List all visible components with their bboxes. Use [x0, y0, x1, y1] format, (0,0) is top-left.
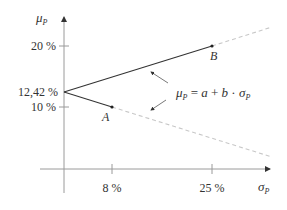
- efficient-line-diagram: μP 20 % 12,42 % 10 % 8 % 25 % σP A B μP …: [0, 0, 287, 210]
- y-tick-label-10: 10 %: [31, 100, 56, 114]
- x-tick-label-25: 25 %: [200, 181, 225, 195]
- diagram-canvas: μP 20 % 12,42 % 10 % 8 % 25 % σP A B μP …: [0, 0, 287, 210]
- annotation-arrow-lower: [151, 100, 166, 110]
- x-tick-label-8: 8 %: [103, 181, 122, 195]
- y-tick-label-intercept: 12,42 %: [18, 85, 58, 99]
- dashed-extension-upper: [212, 27, 272, 46]
- y-tick-label-20: 20 %: [31, 39, 56, 53]
- dashed-extension-lower: [112, 107, 272, 157]
- point-B-label: B: [210, 49, 218, 63]
- point-A-marker: [110, 105, 113, 108]
- line-to-A: [64, 92, 112, 107]
- point-A-label: A: [101, 110, 110, 124]
- point-B-marker: [210, 44, 213, 47]
- formula-label: μP = a + b · σP: [175, 85, 250, 102]
- y-axis-label: μP: [35, 10, 48, 27]
- x-axis-label: σP: [258, 179, 269, 196]
- annotation-arrow-upper: [151, 72, 168, 83]
